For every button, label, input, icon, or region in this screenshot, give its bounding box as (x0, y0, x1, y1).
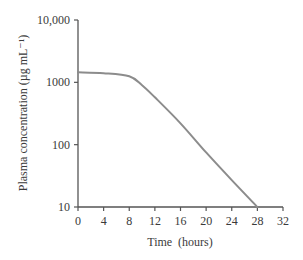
x-axis-ticks: 048121620242832 (75, 207, 289, 228)
concentration-curve (78, 72, 257, 207)
x-tick-label: 24 (226, 214, 238, 228)
x-tick-label: 12 (149, 214, 161, 228)
y-axis-label: Plasma concentration (µg mL⁻¹) (16, 35, 30, 191)
x-tick-label: 28 (251, 214, 263, 228)
axes (78, 20, 283, 207)
x-tick-label: 16 (175, 214, 187, 228)
y-axis-ticks: 10100100010,000 (37, 13, 78, 214)
x-axis-label: Time (hours) (147, 235, 213, 249)
y-tick-label: 10 (58, 200, 70, 214)
y-tick-label: 1000 (46, 75, 70, 89)
y-tick-label: 10,000 (37, 13, 70, 27)
x-tick-label: 4 (101, 214, 107, 228)
x-tick-label: 8 (126, 214, 132, 228)
y-tick-label: 100 (52, 138, 70, 152)
x-tick-label: 20 (200, 214, 212, 228)
x-tick-label: 0 (75, 214, 81, 228)
x-tick-label: 32 (277, 214, 289, 228)
pk-chart: 10100100010,000 048121620242832 Time (ho… (0, 0, 303, 260)
